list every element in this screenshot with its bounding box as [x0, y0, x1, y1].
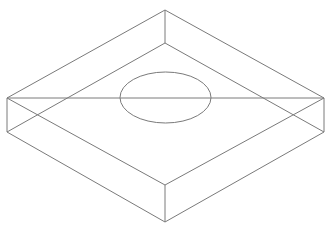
- isometric-slab-diagram: [0, 0, 332, 229]
- edge-bottom-front-right: [165, 132, 324, 222]
- edge-top-front-left: [7, 98, 165, 185]
- edge-top-front-right: [165, 98, 324, 185]
- edge-bottom-back-right: [165, 43, 324, 132]
- edge-top-back-left: [7, 10, 165, 98]
- edge-bottom-front-left: [7, 132, 165, 222]
- edge-top-back-right: [165, 10, 324, 98]
- wireframe-drawing: [0, 0, 332, 229]
- slab-edges: [7, 10, 324, 222]
